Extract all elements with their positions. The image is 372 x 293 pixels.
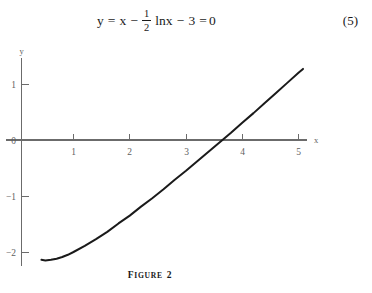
function-plot-svg: 1 2 3 4 5 1 0 −1 −2 y x bbox=[0, 44, 340, 269]
figure-caption-word-rest: IGURE bbox=[134, 271, 162, 280]
x-tick-label-3: 3 bbox=[184, 147, 189, 157]
equation-row: y = x − 1 2 lnx − 3 = 0 (5) bbox=[0, 6, 372, 36]
x-tick-label-4: 4 bbox=[240, 147, 245, 157]
equation-lhs: y bbox=[97, 13, 104, 29]
fraction-denominator: 2 bbox=[143, 22, 150, 33]
x-tick-label-5: 5 bbox=[296, 147, 301, 157]
y-tick-label-0: 0 bbox=[11, 136, 16, 146]
x-tick-label-2: 2 bbox=[127, 147, 132, 157]
figure-caption: FIGURE2 bbox=[0, 270, 300, 280]
equation-equals-second: = bbox=[199, 13, 207, 29]
fraction-bar bbox=[142, 20, 151, 21]
equation-term-ln: lnx bbox=[155, 13, 173, 29]
x-axis-label: x bbox=[314, 135, 319, 145]
plot-area: 1 2 3 4 5 1 0 −1 −2 y x bbox=[0, 44, 340, 269]
equation-fraction-one-half: 1 2 bbox=[142, 8, 151, 34]
y-axis-ticks bbox=[22, 85, 30, 253]
figure-caption-number: 2 bbox=[167, 270, 172, 280]
y-axis-label: y bbox=[19, 46, 24, 56]
y-tick-label-1: 1 bbox=[11, 80, 16, 90]
equation-term-x: x bbox=[120, 13, 127, 29]
equation-expression: y = x − 1 2 lnx − 3 = 0 bbox=[97, 6, 216, 36]
equation-equals-first: = bbox=[108, 13, 116, 29]
y-axis-tick-labels: 1 0 −1 −2 bbox=[6, 80, 16, 258]
equation-minus-first: − bbox=[130, 13, 138, 29]
x-axis-ticks bbox=[74, 134, 299, 140]
axes-group bbox=[6, 58, 307, 266]
equation-rhs: 0 bbox=[209, 13, 216, 29]
x-tick-label-1: 1 bbox=[71, 147, 76, 157]
equation-term-constant: 3 bbox=[188, 13, 195, 29]
fraction-numerator: 1 bbox=[143, 8, 150, 19]
y-tick-label-neg-1: −1 bbox=[6, 192, 16, 202]
function-curve bbox=[41, 69, 303, 261]
equation-minus-second: − bbox=[177, 13, 185, 29]
y-tick-label-neg-2: −2 bbox=[6, 248, 16, 258]
x-axis-tick-labels: 1 2 3 4 5 bbox=[71, 147, 301, 157]
equation-number: (5) bbox=[343, 6, 358, 36]
figure-block: 1 2 3 4 5 1 0 −1 −2 y x bbox=[0, 44, 372, 293]
